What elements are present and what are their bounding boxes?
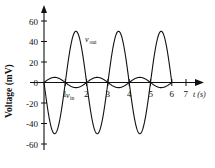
y-tick-label-minus20: -20 — [26, 99, 38, 109]
y-tick-label-60: 60 — [29, 17, 39, 27]
x-tick-label-6: 6 — [170, 89, 175, 99]
x-tick-label-7: 7 — [184, 89, 189, 99]
v-out-label: v out — [85, 35, 97, 45]
v-out-label-subscript: out — [90, 39, 98, 45]
y-axis-title: Voltage (mV) — [4, 64, 15, 118]
y-tick-label-minus40: -40 — [26, 119, 38, 129]
x-axis-title: t (s) — [193, 90, 206, 99]
plot-area: Voltage (mV) 60 40 20 0 -20 -40 -60 1 2 — [0, 0, 215, 168]
y-tick-label-minus60: -60 — [26, 140, 38, 150]
v-in-label-subscript: in — [70, 95, 75, 101]
y-tick-label-20: 20 — [29, 58, 39, 68]
y-tick-label-40: 40 — [29, 37, 39, 47]
v-in-label: v in — [66, 91, 75, 101]
x-axis-arrow-icon — [195, 79, 204, 86]
y-axis-arrow-icon — [41, 5, 47, 13]
v-out-label-text: v — [85, 35, 89, 44]
voltage-waveform-figure: Voltage (mV) 60 40 20 0 -20 -40 -60 1 2 — [0, 0, 215, 168]
